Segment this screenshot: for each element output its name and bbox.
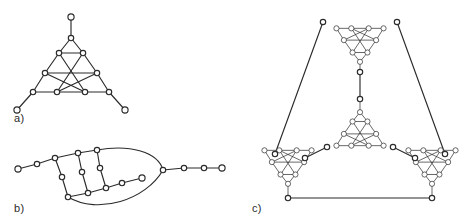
edge	[55, 153, 78, 158]
graph-node	[365, 50, 370, 55]
panel-b-nodes	[15, 147, 225, 199]
graph-node	[349, 143, 354, 148]
graph-node	[357, 96, 362, 101]
graph-node	[334, 143, 339, 148]
graph-node	[412, 155, 417, 160]
edge-curve-upper	[97, 148, 163, 170]
edge	[45, 53, 59, 73]
panel-a-edges	[17, 17, 125, 110]
graph-node	[181, 165, 186, 170]
graph-node	[160, 167, 165, 172]
edge	[82, 172, 88, 193]
graph-node	[357, 110, 362, 115]
graph-node	[406, 148, 411, 153]
graph-node	[52, 155, 57, 160]
graph-node	[54, 89, 59, 94]
edge-link	[305, 147, 327, 158]
graph-node	[94, 70, 99, 75]
graph-node	[350, 50, 355, 55]
figure-label-c: c)	[252, 202, 262, 214]
graph-node	[381, 143, 386, 148]
edge	[33, 73, 45, 92]
graph-node	[122, 107, 128, 113]
panel-c-figure	[262, 19, 458, 200]
panel-b-edges	[18, 148, 222, 205]
graph-node	[429, 195, 434, 200]
graph-node	[59, 174, 64, 179]
graph-node	[357, 69, 362, 74]
graph-node	[68, 14, 74, 20]
graph-node	[302, 155, 307, 160]
graph-node	[294, 148, 299, 153]
graph-node	[119, 180, 124, 185]
graph-node	[381, 26, 386, 31]
graph-node	[42, 70, 47, 75]
graph-node	[453, 148, 458, 153]
graph-node	[285, 195, 290, 200]
graph-node	[366, 143, 371, 148]
graph-node	[349, 26, 354, 31]
figure-page: a) b) c)	[0, 0, 466, 224]
graph-node	[374, 131, 379, 136]
graph-node	[262, 148, 267, 153]
graph-node	[365, 119, 370, 124]
cluster-center	[334, 99, 386, 148]
graph-node	[97, 165, 102, 170]
graph-node	[429, 181, 434, 186]
graph-node	[341, 38, 346, 43]
graph-node	[65, 194, 70, 199]
edge-link	[397, 22, 445, 154]
edge	[97, 73, 109, 92]
graph-node	[201, 165, 206, 170]
graph-node	[272, 151, 277, 156]
graph-node	[106, 89, 111, 94]
graph-node	[390, 144, 395, 149]
graph-node	[80, 50, 85, 55]
graph-node	[366, 26, 371, 31]
graph-node	[85, 190, 90, 195]
graph-node	[341, 131, 346, 136]
graph-node	[278, 172, 283, 177]
panel-b-figure	[15, 147, 225, 204]
graph-node	[75, 150, 80, 155]
graph-diagram-canvas: a) b) c)	[0, 0, 466, 224]
graph-node	[68, 35, 73, 40]
graph-node	[350, 119, 355, 124]
graph-node	[374, 38, 379, 43]
figure-label-a: a)	[14, 112, 24, 124]
edge	[83, 53, 97, 73]
graph-node	[82, 89, 87, 94]
graph-node	[34, 161, 39, 166]
figure-label-b: b)	[14, 202, 24, 214]
graph-node	[103, 185, 108, 190]
graph-node	[421, 148, 426, 153]
graph-node	[219, 165, 225, 171]
graph-node	[437, 172, 442, 177]
graph-node	[30, 89, 35, 94]
panel-a-figure	[14, 14, 128, 113]
graph-node	[15, 166, 21, 172]
graph-node	[79, 169, 84, 174]
graph-node	[334, 26, 339, 31]
graph-node	[94, 147, 99, 152]
edge-link	[275, 22, 323, 154]
graph-node	[324, 144, 329, 149]
graph-node	[320, 19, 325, 24]
graph-node	[394, 19, 399, 24]
cluster-top	[334, 26, 386, 75]
graph-node	[139, 175, 145, 181]
graph-node	[442, 151, 447, 156]
graph-node	[309, 148, 314, 153]
edge-link	[393, 147, 415, 158]
graph-node	[446, 160, 451, 165]
graph-node	[422, 172, 427, 177]
graph-node	[285, 181, 290, 186]
graph-node	[56, 50, 61, 55]
graph-node	[357, 59, 362, 64]
graph-node	[293, 172, 298, 177]
graph-node	[269, 160, 274, 165]
